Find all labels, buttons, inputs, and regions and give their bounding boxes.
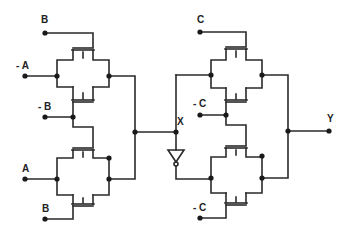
label-not-c-bottom: - C bbox=[193, 203, 206, 213]
label-not-b: - B bbox=[38, 102, 51, 112]
label-not-a: - A bbox=[16, 61, 29, 71]
inverter bbox=[168, 150, 184, 162]
label-y: Y bbox=[327, 114, 334, 124]
label-c-top: C bbox=[197, 15, 204, 25]
label-a: A bbox=[22, 164, 29, 174]
right-lower-transmission-gate bbox=[200, 115, 262, 218]
label-b-top: B bbox=[41, 15, 48, 25]
label-not-c-top: - C bbox=[193, 99, 206, 109]
label-b-bottom: B bbox=[42, 204, 49, 214]
circuit-diagram: B - A - B A B C X - C - C Y bbox=[0, 0, 354, 236]
label-x: X bbox=[177, 117, 184, 127]
left-lower-transmission-gate bbox=[25, 117, 109, 219]
